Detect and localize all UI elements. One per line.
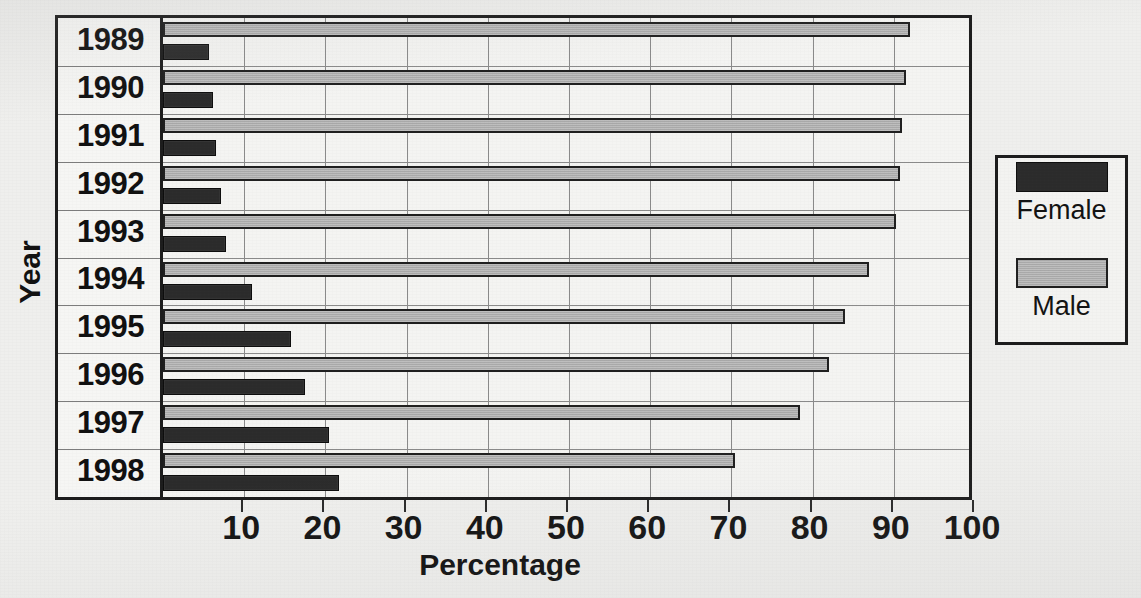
bar-female-1991 [163, 140, 216, 156]
row-separator-1995 [163, 305, 969, 306]
bar-male-1992 [163, 166, 900, 181]
year-label-1997: 1997 [58, 405, 163, 441]
bar-male-1995 [163, 309, 845, 324]
row-separator-1991 [163, 114, 969, 115]
row-separator-1996 [163, 353, 969, 354]
bar-male-1990 [163, 70, 906, 85]
row-separator-gutter-1993 [58, 210, 160, 211]
year-label-1995: 1995 [58, 309, 163, 345]
bar-female-1997 [163, 427, 329, 443]
tick-label-100: 100 [932, 508, 1012, 547]
legend-swatch-female-icon [1016, 162, 1108, 192]
bar-male-1989 [163, 22, 910, 37]
tick-mark-60 [647, 500, 649, 512]
year-label-1992: 1992 [58, 166, 163, 202]
legend-entry-male: Male [998, 258, 1125, 322]
year-label-1990: 1990 [58, 70, 163, 106]
legend: Female Male [995, 155, 1128, 345]
year-label-1994: 1994 [58, 261, 163, 297]
tick-mark-20 [322, 500, 324, 512]
tick-mark-40 [485, 500, 487, 512]
tick-label-70: 70 [688, 508, 768, 547]
year-label-1989: 1989 [58, 22, 163, 58]
row-separator-gutter-1996 [58, 353, 160, 354]
row-separator-gutter-1991 [58, 114, 160, 115]
tick-mark-80 [810, 500, 812, 512]
plot-area [163, 18, 969, 497]
bar-female-1994 [163, 284, 252, 300]
legend-label-male: Male [998, 291, 1125, 322]
row-separator-gutter-1995 [58, 305, 160, 306]
bar-female-1992 [163, 188, 221, 204]
legend-entry-female: Female [998, 162, 1125, 226]
row-separator-gutter-1990 [58, 66, 160, 67]
tick-label-40: 40 [445, 508, 525, 547]
bar-female-1996 [163, 379, 305, 395]
tick-label-80: 80 [770, 508, 850, 547]
x-axis-title: Percentage [0, 548, 1000, 582]
tick-mark-100 [972, 500, 974, 512]
tick-mark-90 [891, 500, 893, 512]
legend-swatch-male-icon [1016, 258, 1108, 288]
row-separator-1994 [163, 258, 969, 259]
bar-male-1991 [163, 118, 902, 133]
tick-label-20: 20 [282, 508, 362, 547]
row-separator-gutter-1997 [58, 401, 160, 402]
year-label-1993: 1993 [58, 214, 163, 250]
tick-label-30: 30 [364, 508, 444, 547]
row-separator-gutter-1994 [58, 258, 160, 259]
tick-label-10: 10 [201, 508, 281, 547]
tick-mark-70 [728, 500, 730, 512]
year-label-1996: 1996 [58, 357, 163, 393]
tick-mark-50 [566, 500, 568, 512]
tick-label-90: 90 [851, 508, 931, 547]
row-separator-1997 [163, 401, 969, 402]
bar-female-1998 [163, 475, 339, 491]
row-separator-1998 [163, 449, 969, 450]
row-separator-1992 [163, 162, 969, 163]
year-label-1998: 1998 [58, 453, 163, 489]
row-separator-1993 [163, 210, 969, 211]
plot-frame: 1989199019911992199319941995199619971998 [55, 15, 972, 500]
y-axis-title: Year [13, 212, 47, 332]
bar-female-1989 [163, 44, 209, 60]
year-label-1991: 1991 [58, 118, 163, 154]
tick-mark-30 [404, 500, 406, 512]
bar-male-1998 [163, 453, 735, 468]
bar-female-1995 [163, 331, 291, 347]
bar-male-1993 [163, 214, 896, 229]
row-separator-1990 [163, 66, 969, 67]
legend-label-female: Female [998, 195, 1125, 226]
year-axis-labels: 1989199019911992199319941995199619971998 [58, 18, 163, 497]
tick-mark-10 [241, 500, 243, 512]
bar-female-1993 [163, 236, 226, 252]
tick-label-50: 50 [526, 508, 606, 547]
row-separator-gutter-1998 [58, 449, 160, 450]
tick-label-60: 60 [607, 508, 687, 547]
row-separator-gutter-1992 [58, 162, 160, 163]
bar-male-1994 [163, 262, 869, 277]
bar-chart: Percentage by Year 198919901991199219931… [0, 0, 1141, 598]
bar-male-1996 [163, 357, 829, 372]
bar-female-1990 [163, 92, 213, 108]
bar-male-1997 [163, 405, 800, 420]
